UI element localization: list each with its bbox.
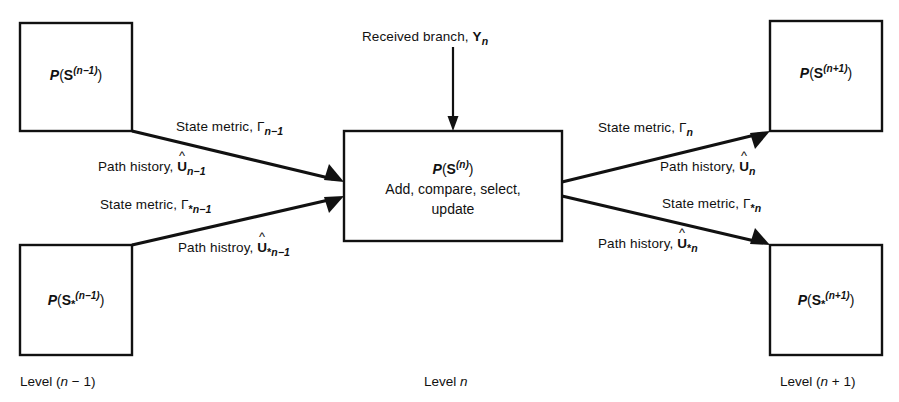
box-center-close: ) [469, 161, 474, 177]
box-bottom-right-close: ) [850, 292, 855, 308]
level-label-center-prefix: Level [424, 374, 460, 389]
label-in-state-metric-star-index: n−1 [193, 203, 212, 215]
box-bottom-right-P: P [798, 292, 807, 308]
box-center-S: S [447, 161, 456, 177]
box-bottom-left-close: ) [100, 292, 105, 308]
box-top-left-S: S [64, 67, 73, 83]
box-top-right-P: P [800, 65, 809, 81]
label-in-path-history: Path history, ^Un−1 [98, 159, 206, 178]
label-in-state-metric-star-text: State metric, [100, 197, 181, 212]
label-out-path-history-index: n [749, 165, 756, 177]
label-in-path-history-text: Path history, [98, 159, 177, 174]
level-label-right-var: n [821, 374, 829, 389]
label-received-branch-symbol: Y [473, 29, 482, 44]
box-top-left-P: P [50, 67, 59, 83]
level-label-left-prefix: Level ( [20, 374, 61, 389]
label-out-state-metric-star-text: State metric, [662, 196, 743, 211]
label-out-path-history-star: Path history, ^U*n [598, 236, 698, 255]
label-in-state-metric-text: State metric, [176, 119, 257, 134]
box-bottom-left-P: P [48, 292, 57, 308]
level-label-right-suffix: + 1) [828, 374, 855, 389]
label-out-path-history: Path history, ^Un [660, 159, 756, 178]
label-out-path-history-text: Path history, [660, 159, 739, 174]
label-in-path-history-hatwrap: ^U [177, 159, 187, 176]
label-out-path-history-star-text: Path history, [598, 236, 677, 251]
hat-icon: ^ [179, 150, 185, 163]
box-bottom-right-S: S [812, 292, 821, 308]
box-center-P: P [433, 161, 442, 177]
label-out-state-metric-index: n [686, 126, 693, 138]
label-out-state-metric: State metric, Γn [598, 120, 693, 139]
trellis-stage-diagram: P(S(n−1)) P(S*(n−1)) P(S(n+1)) P(S*(n+1)… [0, 0, 899, 402]
level-label-right-prefix: Level ( [780, 374, 821, 389]
label-received-branch: Received branch, Yn [362, 29, 488, 48]
label-in-path-history-star: Path histroy, ^U*n−1 [178, 240, 290, 259]
label-in-path-history-star-text: Path histroy, [178, 240, 257, 255]
arrow-received-branch [448, 47, 459, 131]
hat-icon: ^ [679, 227, 685, 240]
label-out-path-history-star-hatwrap: ^U [677, 236, 687, 253]
box-top-right-close: ) [848, 65, 853, 81]
level-label-left: Level (n − 1) [20, 374, 95, 389]
box-top-right-exponent: (n+1) [823, 63, 847, 74]
level-label-right: Level (n + 1) [780, 374, 855, 389]
label-in-path-history-star-index: n−1 [271, 246, 290, 258]
hat-icon: ^ [259, 231, 265, 244]
label-out-state-metric-star-index: n [755, 202, 762, 214]
box-bottom-left-label: P(S*(n−1)) [20, 290, 132, 310]
box-top-left-label: P(S(n−1)) [20, 65, 132, 83]
box-center-symbol: P(S(n)) [344, 158, 562, 179]
label-out-path-history-star-index: n [691, 242, 698, 254]
box-top-right-S: S [814, 65, 823, 81]
box-top-right-label: P(S(n+1)) [770, 63, 882, 81]
box-bottom-right-exponent: (n+1) [825, 290, 849, 301]
hat-icon: ^ [741, 150, 747, 163]
level-label-center: Level n [424, 374, 468, 389]
label-received-branch-text: Received branch, [362, 29, 473, 44]
box-center-line3: update [344, 199, 562, 219]
box-bottom-right-label: P(S*(n+1)) [770, 290, 882, 310]
label-received-branch-index: n [482, 35, 489, 47]
level-label-center-var: n [460, 374, 468, 389]
box-center-line2: Add, compare, select, [344, 179, 562, 199]
label-in-path-history-index: n−1 [187, 165, 206, 177]
box-center-exponent: (n) [456, 159, 469, 170]
level-label-left-suffix: − 1) [68, 374, 95, 389]
label-out-state-metric-text: State metric, [598, 120, 679, 135]
label-in-state-metric: State metric, Γn−1 [176, 119, 283, 138]
level-label-left-var: n [61, 374, 69, 389]
label-out-path-history-hatwrap: ^U [739, 159, 749, 176]
label-in-state-metric-index: n−1 [264, 125, 283, 137]
label-in-state-metric-star: State metric, Γ*n−1 [100, 197, 212, 216]
box-bottom-left-S: S [62, 292, 71, 308]
box-bottom-left-exponent: (n−1) [75, 290, 99, 301]
box-top-left-close: ) [98, 67, 103, 83]
label-out-state-metric-star: State metric, Γ*n [662, 196, 761, 215]
box-top-left-exponent: (n−1) [73, 65, 97, 76]
label-in-path-history-star-hatwrap: ^U [257, 240, 267, 257]
box-center-label: P(S(n)) Add, compare, select, update [344, 158, 562, 220]
